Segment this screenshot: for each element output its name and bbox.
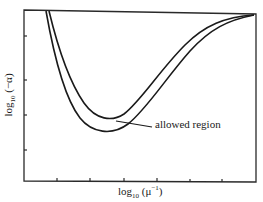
annotation-leader-line — [116, 121, 152, 127]
y-axis-label-subscript: 10 — [9, 95, 17, 102]
upper-boundary-curve — [49, 11, 254, 119]
plot-frame — [24, 10, 256, 182]
y-axis-label-rest: (−α) — [2, 73, 14, 95]
x-axis-label-superscript: −1 — [151, 184, 158, 192]
x-axis-label-pre: (μ — [139, 185, 151, 197]
x-axis-label: log10 (μ−1) — [118, 184, 163, 200]
lower-boundary-curve — [46, 11, 254, 131]
x-axis-label-subscript: 10 — [132, 192, 139, 200]
plot-area — [0, 0, 263, 202]
x-axis-label-base: log — [118, 185, 132, 197]
y-axis-label: log10 (−α) — [2, 73, 17, 116]
y-axis-label-base: log — [2, 102, 14, 116]
allowed-region-annotation: allowed region — [155, 118, 221, 130]
x-axis-label-post: ) — [159, 185, 163, 197]
